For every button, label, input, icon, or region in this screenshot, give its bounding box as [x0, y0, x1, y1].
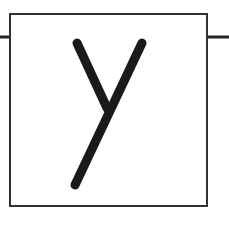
block-diagram — [0, 0, 229, 231]
